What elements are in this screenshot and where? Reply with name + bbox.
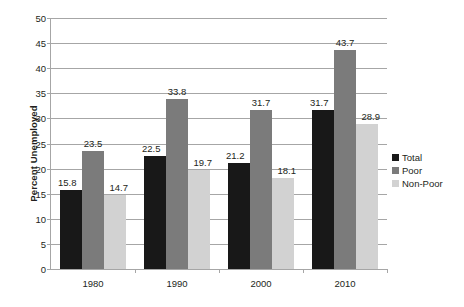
x-axis-tick-mark [303,269,304,273]
x-axis-category-label: 1980 [82,278,103,289]
x-axis-category-label: 1990 [166,278,187,289]
bar-column: 31.7 [312,18,334,269]
chart-legend: TotalPoorNon-Poor [392,151,462,190]
bar-column: 23.5 [82,18,104,269]
bar: 31.7 [312,110,334,269]
bar-chart: Percent Unemployed 051015202530354045501… [0,0,464,307]
bar: 14.7 [104,195,126,269]
bar-value-label: 33.8 [168,86,187,97]
bar-column: 15.8 [60,18,82,269]
y-axis-tick-label: 20 [35,163,46,174]
bar: 19.7 [188,170,210,269]
y-axis-tick-label: 25 [35,138,46,149]
bar-value-label: 19.7 [194,157,213,168]
bar-column: 19.7 [188,18,210,269]
bar-group-bars: 22.533.819.7 [144,18,210,269]
x-axis-category-label: 2000 [250,278,271,289]
y-axis-tick-mark [47,169,51,170]
bar: 18.1 [272,178,294,269]
bar-value-label: 15.8 [58,177,77,188]
y-axis-tick-label: 30 [35,113,46,124]
legend-item-non-poor[interactable]: Non-Poor [392,177,462,190]
bar: 15.8 [60,190,82,269]
bar-group: 31.743.728.9 [312,18,378,269]
bar-column: 31.7 [250,18,272,269]
bar-group: 21.231.718.1 [228,18,294,269]
y-axis-tick-mark [47,118,51,119]
bar-value-label: 21.2 [226,150,245,161]
y-axis-tick-mark [47,18,51,19]
x-axis-category-label: 2010 [334,278,355,289]
bar-group: 22.533.819.7 [144,18,210,269]
y-axis-tick-mark [47,43,51,44]
legend-item-poor[interactable]: Poor [392,164,462,177]
bar: 33.8 [166,99,188,269]
bar-group-bars: 31.743.728.9 [312,18,378,269]
bar-value-label: 43.7 [336,37,355,48]
bar-column: 28.9 [356,18,378,269]
x-axis-tick-mark [219,269,220,273]
bar-column: 14.7 [104,18,126,269]
legend-item-total[interactable]: Total [392,151,462,164]
y-axis-tick-label: 40 [35,63,46,74]
bar-value-label: 22.5 [142,143,161,154]
bar-column: 18.1 [272,18,294,269]
bar-group: 15.823.514.7 [60,18,126,269]
bar-column: 33.8 [166,18,188,269]
y-axis-tick-label: 10 [35,213,46,224]
bar-column: 43.7 [334,18,356,269]
y-axis-tick-mark [47,194,51,195]
y-axis-tick-mark [47,219,51,220]
y-axis-tick-label: 0 [41,264,46,275]
y-axis-tick-mark [47,68,51,69]
bar-value-label: 18.1 [278,165,297,176]
legend-label: Poor [402,165,422,176]
plot-area: 0510152025303540455015.823.514.7198022.5… [50,18,387,270]
y-axis-tick-mark [47,93,51,94]
bar: 43.7 [334,50,356,269]
bar-column: 22.5 [144,18,166,269]
bar-column: 21.2 [228,18,250,269]
y-axis-tick-label: 50 [35,13,46,24]
y-axis-tick-label: 45 [35,38,46,49]
bar: 31.7 [250,110,272,269]
bar: 23.5 [82,151,104,269]
y-axis-tick-label: 35 [35,88,46,99]
bar-group-bars: 21.231.718.1 [228,18,294,269]
x-axis-tick-mark [135,269,136,273]
bar: 21.2 [228,163,250,269]
y-axis-tick-label: 15 [35,188,46,199]
bar-value-label: 28.9 [362,111,381,122]
legend-label: Non-Poor [402,178,443,189]
y-axis-tick-mark [47,269,51,270]
x-axis-tick-mark [387,269,388,273]
legend-swatch-icon [392,154,399,161]
legend-label: Total [402,152,422,163]
legend-swatch-icon [392,180,399,187]
bar-value-label: 23.5 [84,138,103,149]
bar-value-label: 31.7 [252,97,271,108]
y-axis-tick-mark [47,244,51,245]
legend-swatch-icon [392,167,399,174]
bar: 28.9 [356,124,378,269]
bar-value-label: 14.7 [110,182,129,193]
bar-group-bars: 15.823.514.7 [60,18,126,269]
bar-value-label: 31.7 [310,97,329,108]
y-axis-tick-label: 5 [41,238,46,249]
bar: 22.5 [144,156,166,269]
y-axis-tick-mark [47,144,51,145]
